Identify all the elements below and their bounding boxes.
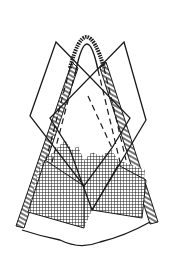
- curved-bottom-edge: [22, 222, 150, 246]
- folded-fabric-illustration: [0, 0, 172, 256]
- illustration-canvas: [0, 0, 172, 256]
- fringed-peak: [70, 37, 104, 68]
